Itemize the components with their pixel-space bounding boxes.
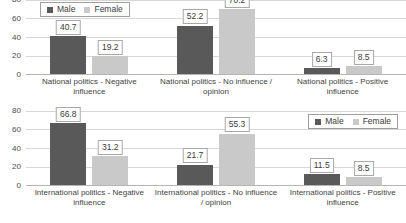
bar-slot-female: 55.3 bbox=[219, 111, 255, 185]
bar-male[interactable] bbox=[304, 174, 340, 185]
bar-slot-male: 21.7 bbox=[177, 111, 213, 185]
y-axis-international: 80 60 40 20 0 bbox=[0, 111, 24, 186]
category-label-no-influence: National politics - No influence / opini… bbox=[153, 77, 280, 97]
legend-item-male[interactable]: Male bbox=[315, 117, 343, 126]
bar-slot-female: 70.2 bbox=[219, 0, 255, 74]
legend-label-female: Female bbox=[94, 5, 122, 14]
bar-slot-male: 66.8 bbox=[50, 111, 86, 185]
y-tick-20: 20 bbox=[12, 52, 21, 60]
legend-international: Male Female bbox=[308, 114, 398, 129]
chart-national-politics: 80 60 40 20 0 40.7 19.2 bbox=[0, 0, 406, 111]
legend-item-female[interactable]: Female bbox=[84, 5, 122, 14]
data-label-female: 8.5 bbox=[354, 50, 374, 65]
y-tick-40: 40 bbox=[12, 145, 21, 153]
category-label-negative: International politics - Negative influe… bbox=[26, 188, 153, 208]
legend-label-female: Female bbox=[363, 117, 391, 126]
bar-male[interactable] bbox=[304, 68, 340, 74]
bar-slot-female: 8.5 bbox=[346, 0, 382, 74]
data-label-female: 55.3 bbox=[225, 117, 250, 132]
y-axis-national: 80 60 40 20 0 bbox=[0, 0, 24, 75]
y-tick-80: 80 bbox=[12, 0, 21, 4]
data-label-male: 21.7 bbox=[183, 148, 208, 163]
y-tick-60: 60 bbox=[12, 15, 21, 23]
data-label-female: 70.2 bbox=[225, 0, 250, 8]
x-axis-line-national bbox=[26, 74, 406, 75]
category-labels-international: International politics - Negative influe… bbox=[26, 188, 406, 208]
data-label-male: 40.7 bbox=[56, 20, 81, 35]
category-label-positive: International politics - Positive influe… bbox=[279, 188, 406, 208]
bar-female[interactable] bbox=[346, 66, 382, 74]
legend-swatch-female-icon bbox=[353, 119, 359, 125]
bar-group-no-influence: 52.2 70.2 bbox=[153, 0, 280, 74]
bar-female[interactable] bbox=[92, 56, 128, 74]
data-label-female: 8.5 bbox=[354, 161, 374, 176]
y-tick-0: 0 bbox=[17, 182, 21, 190]
y-tick-20: 20 bbox=[12, 163, 21, 171]
data-label-female: 31.2 bbox=[98, 140, 123, 155]
bar-group-no-influence: 21.7 55.3 bbox=[153, 111, 280, 185]
bar-female[interactable] bbox=[219, 9, 255, 74]
bar-group-negative-influence: 66.8 31.2 bbox=[26, 111, 153, 185]
legend-national: Male Female bbox=[40, 2, 130, 17]
category-label-positive: National politics - Positive influence bbox=[279, 77, 406, 97]
bar-female[interactable] bbox=[219, 134, 255, 185]
bar-female[interactable] bbox=[346, 177, 382, 185]
bar-slot-female: 31.2 bbox=[92, 111, 128, 185]
bar-female[interactable] bbox=[92, 156, 128, 185]
data-label-male: 52.2 bbox=[183, 9, 208, 24]
x-axis-line-international bbox=[26, 185, 406, 186]
bar-male[interactable] bbox=[177, 26, 213, 74]
stacked-chart-figure: 80 60 40 20 0 40.7 19.2 bbox=[0, 0, 406, 223]
bar-group-positive-influence: 6.3 8.5 bbox=[279, 0, 406, 74]
legend-swatch-male-icon bbox=[315, 119, 321, 125]
y-tick-0: 0 bbox=[17, 71, 21, 79]
bar-male[interactable] bbox=[50, 36, 86, 74]
data-label-male: 11.5 bbox=[310, 158, 334, 173]
legend-swatch-female-icon bbox=[84, 7, 90, 13]
category-labels-national: National politics - Negative influence N… bbox=[26, 77, 406, 97]
bar-male[interactable] bbox=[177, 165, 213, 185]
category-label-no-influence: International politics - No influence / … bbox=[153, 188, 280, 208]
y-tick-80: 80 bbox=[12, 107, 21, 115]
bar-slot-male: 52.2 bbox=[177, 0, 213, 74]
legend-swatch-male-icon bbox=[47, 7, 53, 13]
data-label-male: 66.8 bbox=[56, 107, 81, 122]
category-label-negative: National politics - Negative influence bbox=[26, 77, 153, 97]
legend-label-male: Male bbox=[57, 5, 75, 14]
legend-item-female[interactable]: Female bbox=[353, 117, 391, 126]
data-label-male: 6.3 bbox=[312, 52, 332, 67]
legend-item-male[interactable]: Male bbox=[47, 5, 75, 14]
data-label-female: 19.2 bbox=[98, 40, 123, 55]
bar-slot-male: 6.3 bbox=[304, 0, 340, 74]
bar-male[interactable] bbox=[50, 123, 86, 185]
y-tick-60: 60 bbox=[12, 126, 21, 134]
legend-label-male: Male bbox=[325, 117, 343, 126]
y-tick-40: 40 bbox=[12, 34, 21, 42]
chart-international-politics: 80 60 40 20 0 66.8 31.2 bbox=[0, 111, 406, 223]
